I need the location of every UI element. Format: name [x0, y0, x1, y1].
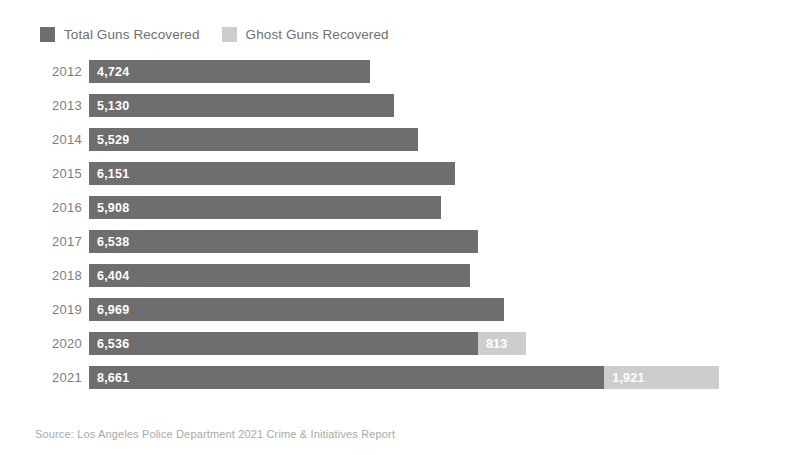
year-axis-label: 2021 — [30, 366, 82, 389]
legend-swatch-icon — [222, 27, 237, 42]
year-axis-label: 2014 — [30, 128, 82, 151]
bar-segment-total: 5,529 — [89, 128, 418, 151]
year-axis-label: 2012 — [30, 60, 82, 83]
bar-group: 5,908 — [89, 196, 441, 219]
bar-value-label: 8,661 — [89, 371, 129, 385]
bar-segment-total: 6,536 — [89, 332, 478, 355]
source-note: Source: Los Angeles Police Department 20… — [35, 428, 395, 440]
bar-segment-ghost: 813 — [478, 332, 526, 355]
bar-segment-total: 6,969 — [89, 298, 504, 321]
legend-entry: Total Guns Recovered — [40, 27, 200, 42]
chart-row: 20196,969 — [0, 298, 791, 332]
year-axis-label: 2013 — [30, 94, 82, 117]
legend-swatch-icon — [40, 27, 55, 42]
chart-row: 20165,908 — [0, 196, 791, 230]
year-axis-label: 2018 — [30, 264, 82, 287]
year-axis-label: 2016 — [30, 196, 82, 219]
bar-segment-total: 6,538 — [89, 230, 478, 253]
bar-segment-total: 4,724 — [89, 60, 370, 83]
chart-row: 20218,6611,921 — [0, 366, 791, 400]
chart-row: 20176,538 — [0, 230, 791, 264]
bar-value-label: 6,536 — [89, 337, 129, 351]
legend-label: Ghost Guns Recovered — [246, 27, 389, 42]
bar-segment-total: 6,151 — [89, 162, 455, 185]
bar-group: 5,130 — [89, 94, 394, 117]
bar-group: 6,538 — [89, 230, 478, 253]
bar-value-label: 1,921 — [604, 371, 644, 385]
bar-value-label: 4,724 — [89, 65, 129, 79]
bar-segment-total: 6,404 — [89, 264, 470, 287]
bar-value-label: 813 — [478, 337, 507, 351]
bar-value-label: 6,538 — [89, 235, 129, 249]
bar-group: 6,969 — [89, 298, 504, 321]
bar-value-label: 6,969 — [89, 303, 129, 317]
chart-row: 20206,536813 — [0, 332, 791, 366]
bar-value-label: 5,529 — [89, 133, 129, 147]
year-axis-label: 2019 — [30, 298, 82, 321]
bar-group: 5,529 — [89, 128, 418, 151]
chart-row: 20124,724 — [0, 60, 791, 94]
chart-plot-area: 20124,72420135,13020145,52920156,1512016… — [0, 60, 791, 405]
bar-chart: Total Guns RecoveredGhost Guns Recovered… — [0, 0, 791, 455]
bar-value-label: 6,151 — [89, 167, 129, 181]
chart-row: 20156,151 — [0, 162, 791, 196]
bar-segment-total: 5,908 — [89, 196, 441, 219]
chart-row: 20186,404 — [0, 264, 791, 298]
bar-segment-total: 5,130 — [89, 94, 394, 117]
bar-group: 6,151 — [89, 162, 455, 185]
bar-group: 4,724 — [89, 60, 370, 83]
chart-row: 20145,529 — [0, 128, 791, 162]
legend-entry: Ghost Guns Recovered — [222, 27, 389, 42]
bar-segment-total: 8,661 — [89, 366, 604, 389]
bar-group: 6,404 — [89, 264, 470, 287]
bar-segment-ghost: 1,921 — [604, 366, 718, 389]
bar-value-label: 5,908 — [89, 201, 129, 215]
legend-label: Total Guns Recovered — [64, 27, 200, 42]
chart-row: 20135,130 — [0, 94, 791, 128]
year-axis-label: 2020 — [30, 332, 82, 355]
year-axis-label: 2015 — [30, 162, 82, 185]
bar-value-label: 5,130 — [89, 99, 129, 113]
year-axis-label: 2017 — [30, 230, 82, 253]
bar-value-label: 6,404 — [89, 269, 129, 283]
bar-group: 8,6611,921 — [89, 366, 719, 389]
chart-legend: Total Guns RecoveredGhost Guns Recovered — [40, 24, 389, 44]
bar-group: 6,536813 — [89, 332, 526, 355]
